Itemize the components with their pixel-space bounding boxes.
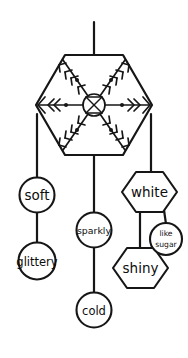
node-soft-label: soft xyxy=(24,187,49,203)
node-white[interactable]: white xyxy=(122,172,177,212)
node-like-sugar-label-line1: like xyxy=(159,229,172,238)
node-glittery[interactable]: glittery xyxy=(16,243,58,280)
node-cold-label: cold xyxy=(82,304,106,318)
root-node-snowflake[interactable] xyxy=(36,55,152,155)
diagram-canvas: soft glittery sparkly cold white shiny l… xyxy=(0,0,188,358)
node-like-sugar-label-line2: sugar xyxy=(155,240,177,249)
link-white-to-like-sugar xyxy=(164,210,166,224)
node-soft[interactable]: soft xyxy=(20,178,55,213)
node-shiny-label: shiny xyxy=(123,260,159,276)
node-glittery-label: glittery xyxy=(16,255,58,269)
node-like-sugar[interactable]: like sugar xyxy=(150,223,182,255)
concept-map-diagram: soft glittery sparkly cold white shiny l… xyxy=(0,0,188,358)
node-like-sugar-shape xyxy=(150,223,182,255)
node-sparkly[interactable]: sparkly xyxy=(77,213,112,248)
node-sparkly-label: sparkly xyxy=(77,225,111,236)
node-white-label: white xyxy=(131,184,168,200)
node-cold[interactable]: cold xyxy=(77,293,112,328)
